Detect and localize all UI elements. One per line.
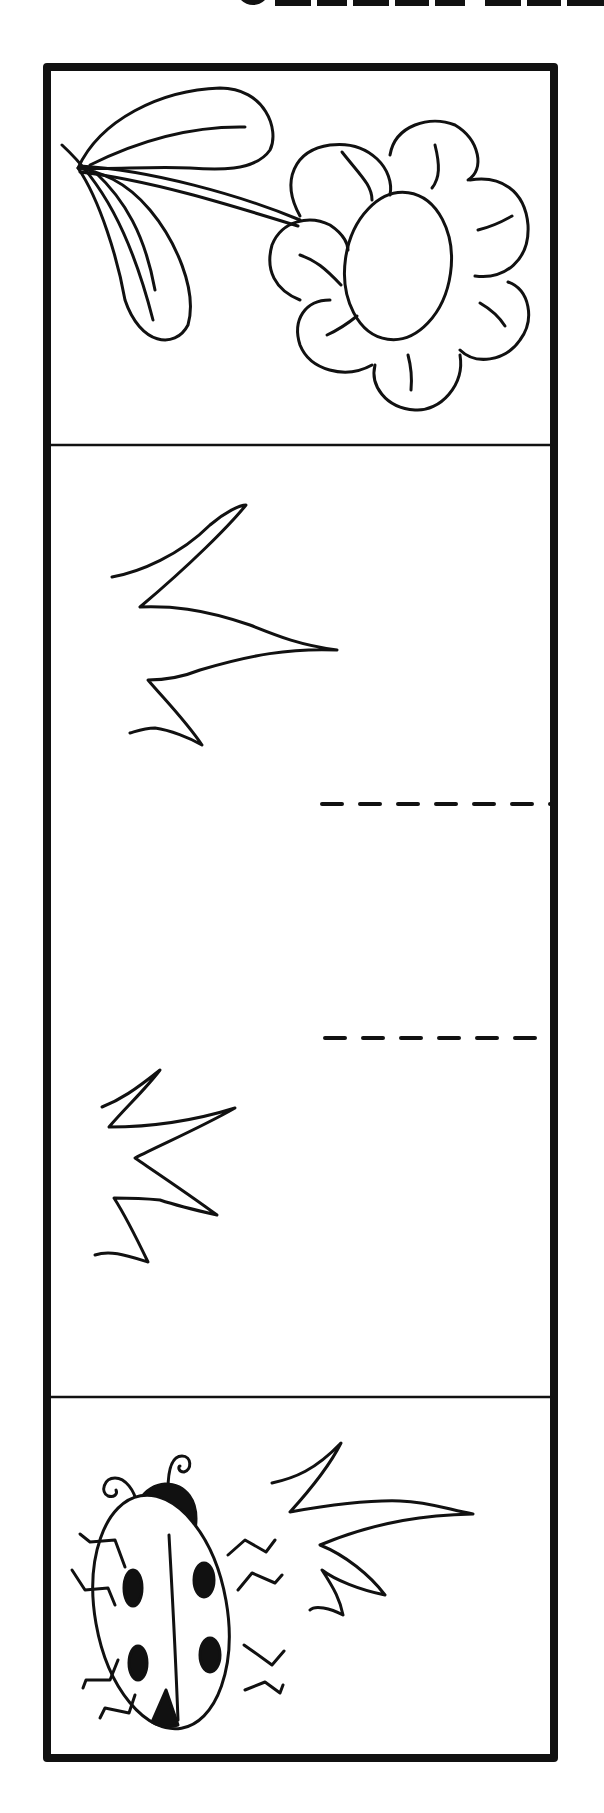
worksheet-drawing — [0, 0, 604, 1813]
ladybug-icon — [72, 1456, 284, 1740]
flower-icon — [62, 88, 529, 410]
grass-tuft-bottom-icon — [272, 1443, 473, 1615]
grass-tuft-upper-icon — [112, 505, 337, 745]
flower-center — [335, 185, 461, 346]
grass-tuft-lower-icon — [95, 1070, 235, 1262]
